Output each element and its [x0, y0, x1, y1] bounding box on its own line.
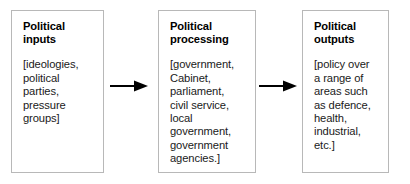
stage-box-political-outputs: Political outputs [policy over a range o… — [302, 10, 389, 173]
stage-body-political-inputs: [ideologies, political parties, pressure… — [23, 58, 93, 125]
stage-title-political-processing: Political processing — [170, 20, 245, 46]
stage-body-political-outputs: [policy over a range of areas such as de… — [314, 58, 378, 152]
stage-box-political-processing: Political processing [government, Cabine… — [158, 10, 256, 173]
right-arrow-icon-inputs-to-processing — [110, 79, 148, 93]
stage-title-political-inputs: Political inputs — [23, 20, 93, 46]
stage-title-political-outputs: Political outputs — [314, 20, 378, 46]
political-system-flow-diagram: Political inputs [ideologies, political … — [0, 0, 410, 184]
stage-body-political-processing: [government, Cabinet, parliament, civil … — [170, 58, 245, 165]
right-arrow-icon-processing-to-outputs — [259, 79, 297, 93]
stage-box-political-inputs: Political inputs [ideologies, political … — [11, 10, 104, 173]
